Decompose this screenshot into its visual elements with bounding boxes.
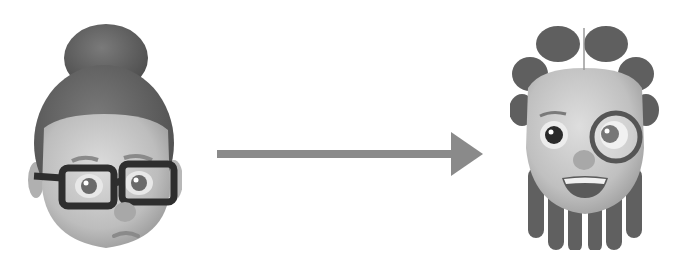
monocle-icon [592,113,640,161]
memoji-braids-monocle-avatar [510,18,660,250]
memoji-bun-glasses-avatar [22,18,182,250]
right-arrow-icon [215,130,485,180]
